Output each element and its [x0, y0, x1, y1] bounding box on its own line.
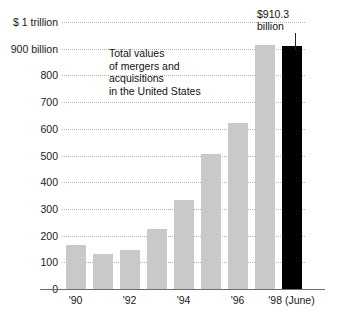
- bar-1996: [228, 123, 248, 289]
- bar-1998: [282, 46, 302, 289]
- y-axis-tick-label: 400: [40, 177, 58, 188]
- mergers-acquisitions-bar-chart: 0100200300400500600700800900 billion$ 1 …: [0, 0, 339, 319]
- highlight-callout: $910.3 billion: [257, 8, 289, 32]
- bar-1993: [147, 229, 167, 289]
- bar-1995: [201, 154, 221, 289]
- callout-value: $910.3: [257, 8, 289, 20]
- callout-unit: billion: [257, 20, 289, 32]
- y-axis-tick-label: 800: [40, 70, 58, 81]
- y-axis-tick-label: 100: [40, 257, 58, 268]
- y-axis-tick-label: 500: [40, 150, 58, 161]
- bar-1994: [174, 200, 194, 289]
- x-axis-tick-label: '96: [231, 294, 245, 306]
- x-axis-line: [40, 289, 325, 290]
- y-axis-tick-label: 200: [40, 230, 58, 241]
- y-axis-tick-label: 600: [40, 123, 58, 134]
- bar-1990: [66, 245, 86, 289]
- chart-annotation: Total values of mergers and acquisitions…: [109, 47, 201, 97]
- y-axis-tick-label: 300: [40, 203, 58, 214]
- bar-1992: [120, 250, 140, 289]
- y-axis-tick-label: $ 1 trillion: [13, 17, 58, 28]
- x-axis-tick-label: '90: [69, 294, 83, 306]
- y-axis-labels: 0100200300400500600700800900 billion$ 1 …: [0, 0, 58, 319]
- y-axis-tick-label: 700: [40, 97, 58, 108]
- bar-1997: [255, 45, 275, 289]
- x-axis-tick-label: '98 (June): [268, 294, 314, 306]
- x-axis-tick-label: '94: [177, 294, 191, 306]
- bar-1991: [93, 254, 113, 289]
- callout-leader-line: [295, 33, 296, 50]
- x-axis-tick-label: '92: [123, 294, 137, 306]
- y-axis-tick-label: 900 billion: [11, 43, 58, 54]
